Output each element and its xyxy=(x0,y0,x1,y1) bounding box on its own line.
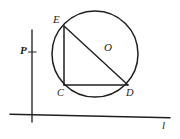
geometry-canvas xyxy=(0,0,180,139)
label-point-c: C xyxy=(57,88,64,99)
label-point-d: D xyxy=(126,88,134,99)
segment-ed-diameter xyxy=(64,26,128,85)
geometry-figure: E O C D P l xyxy=(0,0,180,139)
label-point-o: O xyxy=(104,42,112,53)
label-point-e: E xyxy=(53,14,60,25)
horizontal-line-l xyxy=(10,114,170,118)
label-point-p: P xyxy=(20,45,27,56)
label-line-l: l xyxy=(162,120,165,131)
